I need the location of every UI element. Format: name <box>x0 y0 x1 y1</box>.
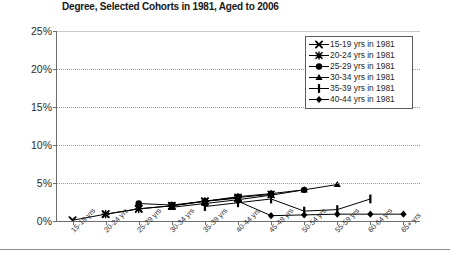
y-axis-tick <box>53 69 57 70</box>
gridline <box>56 183 420 184</box>
data-point-circle <box>136 200 142 206</box>
data-point-diamond <box>301 211 307 218</box>
y-axis-tick-label: 5% <box>6 177 52 189</box>
data-point-diamond <box>400 211 406 218</box>
y-axis-tick-label: 20% <box>6 63 52 75</box>
legend-label: 15-19 yrs in 1981 <box>330 39 395 50</box>
series-line-2 <box>139 190 304 205</box>
legend-marker-circle-icon <box>308 61 330 72</box>
data-point-diamond <box>367 211 373 218</box>
y-axis-line <box>56 31 57 221</box>
y-axis-tick-label: 15% <box>6 101 52 113</box>
y-axis-tick <box>53 145 57 146</box>
legend-marker-diamond-icon <box>308 94 330 105</box>
legend-marker-triangle-icon <box>308 72 330 83</box>
footer-rule <box>0 249 450 250</box>
y-axis-tick <box>53 31 57 32</box>
gridline <box>56 145 420 146</box>
legend-item: 40-44 yrs in 1981 <box>308 94 409 105</box>
y-axis-tick-label: 25% <box>6 25 52 37</box>
legend-marker-bar-icon <box>308 83 330 94</box>
legend-item: 15-19 yrs in 1981 <box>308 39 409 50</box>
legend-label: 20-24 yrs in 1981 <box>330 50 395 61</box>
legend-item: 20-24 yrs in 1981 <box>308 50 409 61</box>
legend-marker-asterisk-icon <box>308 50 330 61</box>
y-axis-tick <box>53 107 57 108</box>
gridline <box>56 31 420 32</box>
chart-title: Degree, Selected Cohorts in 1981, Aged t… <box>62 1 402 12</box>
data-point-diamond <box>334 211 340 218</box>
legend-item: 30-34 yrs in 1981 <box>308 72 409 83</box>
data-point-triangle <box>334 181 341 187</box>
y-axis-tick <box>53 183 57 184</box>
data-point-diamond <box>316 96 322 103</box>
data-point-asterisk <box>315 52 322 59</box>
chart-legend: 15-19 yrs in 198120-24 yrs in 198125-29 … <box>305 36 413 109</box>
legend-item: 35-39 yrs in 1981 <box>308 83 409 94</box>
x-axis-labels: 15-19 yrs20-24 yrs25-29 yrs30-34 yrs35-3… <box>0 222 450 279</box>
legend-label: 25-29 yrs in 1981 <box>330 61 395 72</box>
legend-label: 30-34 yrs in 1981 <box>330 72 395 83</box>
legend-marker-x-icon <box>308 39 330 50</box>
data-point-asterisk <box>102 211 109 218</box>
chart-container: Degree, Selected Cohorts in 1981, Aged t… <box>0 0 450 279</box>
data-point-circle <box>316 63 322 69</box>
legend-label: 40-44 yrs in 1981 <box>330 94 395 105</box>
y-axis-tick-label: 10% <box>6 139 52 151</box>
legend-label: 35-39 yrs in 1981 <box>330 83 395 94</box>
data-point-diamond <box>268 212 274 219</box>
legend-item: 25-29 yrs in 1981 <box>308 61 409 72</box>
